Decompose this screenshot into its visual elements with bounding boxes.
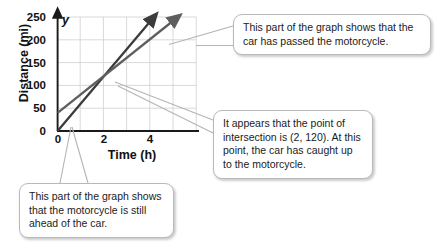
y-tick-200: 200 — [12, 34, 46, 46]
callout-intersection-point: It appears that the point of intersectio… — [213, 110, 373, 179]
y-tick-100: 100 — [12, 79, 46, 91]
callout-car-passed-motorcycle: This part of the graph shows that the ca… — [233, 14, 431, 55]
y-tick-0: 0 — [12, 125, 46, 137]
y-variable-label: y — [62, 13, 69, 27]
leader-line-passed — [169, 26, 233, 46]
callout-motorcycle-ahead: This part of the graph shows that the mo… — [19, 183, 174, 238]
x-tick-4: 4 — [140, 133, 160, 145]
series-line-motorcycle — [58, 21, 174, 113]
x-tick-2: 2 — [94, 133, 114, 145]
y-tick-150: 150 — [12, 57, 46, 69]
y-tick-250: 250 — [12, 11, 46, 23]
leader-line-intersection — [115, 82, 213, 133]
x-tick-0: 0 — [48, 133, 68, 145]
graph-figure: Distance (mi) Time (h) y 250 200 150 100… — [0, 0, 436, 248]
x-axis-label: Time (h) — [72, 148, 192, 162]
y-tick-50: 50 — [12, 102, 46, 114]
